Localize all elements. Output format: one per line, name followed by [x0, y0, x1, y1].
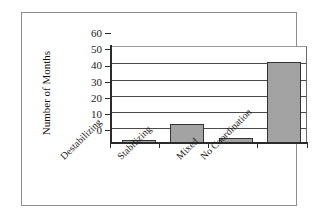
x-tick-mark-4	[307, 143, 308, 148]
y-axis-title: Number of Months	[40, 38, 52, 148]
bar-no-coordination	[267, 62, 301, 143]
y-tick-label-60: 60	[62, 28, 102, 39]
y-axis-line	[110, 45, 112, 144]
x-tick-mark-0	[110, 143, 111, 148]
y-tick-label-50: 50	[62, 44, 102, 55]
figure-border: Number of Months 60 50 40 30 20 10 0	[21, 12, 297, 206]
y-tick-label-40: 40	[62, 60, 102, 71]
y-tick-mark-60	[105, 33, 111, 34]
y-axis-tick-labels: 60 50 40 30 20 10 0	[60, 13, 102, 217]
y-tick-label-20: 20	[62, 93, 102, 104]
x-tick-mark-3	[257, 143, 258, 148]
figure-canvas: Number of Months 60 50 40 30 20 10 0	[0, 0, 316, 217]
y-tick-label-30: 30	[62, 77, 102, 88]
x-tick-mark-1	[159, 143, 160, 148]
